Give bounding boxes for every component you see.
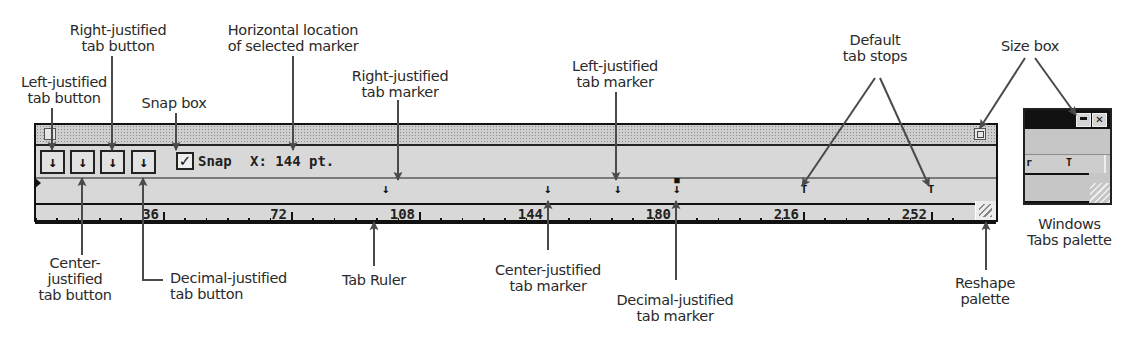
ruler-tick <box>248 218 250 224</box>
callout-line: tab button <box>170 286 300 302</box>
tab-marker-strip[interactable]: ↓ ↓ ↓ ■ ↓ T T <box>36 178 996 202</box>
windows-title-bar[interactable]: ✕ <box>1025 110 1110 129</box>
ruler-tick <box>568 218 570 224</box>
default-tab-stop-icon: T <box>801 183 808 196</box>
left-justified-tab-button[interactable]: ↓ <box>40 150 65 174</box>
ruler-tick <box>483 218 485 224</box>
callout-line: Default <box>835 32 915 48</box>
callout-line: Windows <box>1022 216 1117 232</box>
ruler-tick <box>398 218 400 224</box>
snap-checkbox[interactable]: ✓ <box>176 152 194 170</box>
callout-size-box: Size box <box>990 38 1070 54</box>
callout-line: justified <box>30 271 120 287</box>
ruler-tick <box>462 218 464 224</box>
callout-line: tab button <box>58 38 178 54</box>
ruler-tick <box>846 218 848 224</box>
tab-ruler[interactable]: 36 72 108 144 180 216 252 <box>36 203 976 224</box>
callout-center-justified-tab-marker: Center-justified tab marker <box>488 262 608 294</box>
callout-line: Decimal-justified <box>610 292 740 308</box>
ruler-label: 252 <box>902 206 930 222</box>
decimal-tab-marker-icon: ↓ <box>673 181 681 196</box>
right-justified-tab-button[interactable]: ↓ <box>100 150 125 174</box>
windows-default-tab-stop: T <box>1066 157 1072 168</box>
ruler-tick <box>504 218 506 224</box>
reshape-palette-handle[interactable] <box>975 201 996 220</box>
callout-right-justified-tab-marker: Right-justified tab marker <box>340 68 460 100</box>
left-justified-tab-marker[interactable]: ↓ <box>614 181 622 196</box>
callout-right-justified-tab-button: Right-justified tab button <box>58 22 178 54</box>
ruler-tick <box>803 212 805 224</box>
callout-decimal-justified-tab-button: Decimal-justified tab button <box>170 270 300 302</box>
callout-line: Tab Ruler <box>334 272 414 288</box>
ruler-tick <box>824 218 826 224</box>
center-justified-tab-marker[interactable]: ↓ <box>544 181 552 196</box>
ruler-tick <box>760 218 762 224</box>
ruler-tick <box>419 212 421 224</box>
close-icon[interactable]: ✕ <box>1092 113 1107 127</box>
center-tab-marker-icon: ↓ <box>544 181 552 196</box>
ruler-tick <box>78 218 80 224</box>
windows-ruler-baseline <box>1025 201 1089 203</box>
callout-horizontal-location: Horizontal location of selected marker <box>218 22 368 54</box>
callout-line: Right-justified <box>340 68 460 84</box>
callout-tab-ruler: Tab Ruler <box>334 272 414 288</box>
ruler-tick <box>739 218 741 224</box>
callout-snap-box: Snap box <box>134 95 214 111</box>
callout-line: Center-justified <box>488 262 608 278</box>
ruler-tick <box>291 212 293 224</box>
ruler-tick <box>526 218 528 224</box>
ruler-label: 144 <box>518 206 546 222</box>
default-tab-stop-252: T <box>928 183 935 196</box>
decimal-justified-tab-marker[interactable]: ↓ <box>673 181 681 196</box>
callout-line: Tabs palette <box>1022 232 1117 248</box>
callout-line: tab button <box>14 90 114 106</box>
callout-line: Horizontal location <box>218 22 368 38</box>
size-box[interactable] <box>974 128 986 140</box>
ruler-tick <box>675 212 677 224</box>
ruler-tick <box>888 218 890 224</box>
ruler-tick <box>590 218 592 224</box>
ruler-label: 216 <box>774 206 802 222</box>
ruler-tick <box>547 212 549 224</box>
ruler-tick <box>227 218 229 224</box>
close-box[interactable] <box>44 128 56 140</box>
ruler-tick <box>952 218 954 224</box>
ruler-tick <box>867 218 869 224</box>
callout-line: Snap box <box>134 95 214 111</box>
ruler-label: 36 <box>142 206 162 222</box>
snap-label: Snap <box>198 153 232 169</box>
ruler-tick <box>270 218 272 224</box>
windows-tab-marker[interactable]: r <box>1026 157 1032 168</box>
left-tab-arrow-icon: ↓ <box>48 153 57 171</box>
ruler-tick <box>931 212 933 224</box>
ruler-tick <box>35 218 37 224</box>
center-justified-tab-button[interactable]: ↓ <box>70 150 95 174</box>
callout-decimal-justified-tab-marker: Decimal-justified tab marker <box>610 292 740 324</box>
right-justified-tab-marker[interactable]: ↓ <box>382 181 390 196</box>
left-tab-marker-icon: ↓ <box>614 181 622 196</box>
ruler-tick <box>376 218 378 224</box>
x-position-readout: X: 144 pt. <box>250 153 334 169</box>
windows-size-grip[interactable] <box>1090 183 1110 203</box>
decimal-justified-tab-button[interactable]: ↓ <box>131 150 156 174</box>
minimize-icon[interactable] <box>1076 113 1091 127</box>
default-tab-stop-216: T <box>801 183 808 196</box>
ruler-label: 72 <box>270 206 290 222</box>
tabs-palette: ↓ ↓ ↓ ↓ ✓ Snap X: 144 pt. ↓ ↓ ↓ ■ ↓ T T … <box>34 123 998 222</box>
ruler-tick <box>163 212 165 224</box>
callout-windows-tabs-palette: Windows Tabs palette <box>1022 216 1117 248</box>
palette-title-bar[interactable] <box>36 125 996 146</box>
callout-line: Left-justified <box>14 74 114 90</box>
close-glyph: ✕ <box>1095 114 1103 125</box>
callout-line: tab marker <box>610 308 740 324</box>
ruler-tick <box>355 218 357 224</box>
ruler-tick <box>312 218 314 224</box>
callout-line: Left-justified <box>560 58 670 74</box>
ruler-label: 180 <box>646 206 674 222</box>
windows-marker-strip[interactable]: r T <box>1025 155 1106 173</box>
callout-left-justified-tab-button: Left-justified tab button <box>14 74 114 106</box>
callout-default-tab-stops: Default tab stops <box>835 32 915 64</box>
windows-ruler-line <box>1025 173 1089 175</box>
ruler-tick <box>910 218 912 224</box>
ruler-tick <box>654 218 656 224</box>
